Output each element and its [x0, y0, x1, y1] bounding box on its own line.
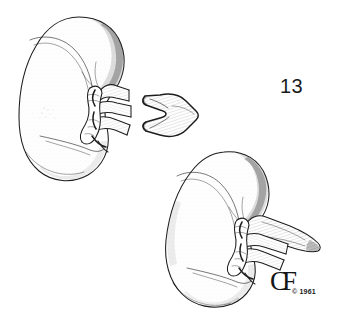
- kidney-superior-left: [16, 14, 131, 189]
- illustration-plate: 13 CF © 1961: [0, 0, 337, 334]
- renal-vessel-segment: [142, 94, 198, 136]
- artist-signature: CF © 1961: [270, 268, 334, 306]
- copyright-notice: © 1961: [292, 288, 316, 295]
- artist-monogram: CF: [270, 268, 291, 295]
- plate-number: 13: [280, 76, 303, 96]
